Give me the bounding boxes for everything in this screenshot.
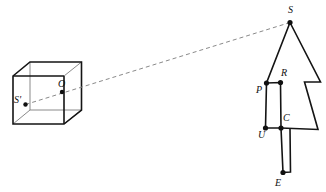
cube-group [13,62,82,124]
label-o: O [58,78,65,89]
point-c [278,125,283,130]
label-p: P [255,84,262,95]
cube-front-face-edges [13,62,82,124]
arrow-inner-notch [267,83,282,129]
label-r: R [280,67,287,78]
cube-hidden-edges [13,62,82,124]
point-r [278,80,283,85]
point-s [287,20,292,25]
label-u: U [258,129,266,140]
label-c: C [283,112,290,123]
point-e [280,170,285,175]
arrow-stem [281,128,291,173]
cube-hidden-edge-diagonal-front-left [13,110,30,124]
label-e: E [274,177,281,188]
point-p [264,80,269,85]
optics-diagram-svg: S S' O P R U C E [0,0,326,192]
point-o [60,90,64,94]
label-s-prime: S' [14,94,22,105]
point-labels: S S' O P R U C E [14,4,293,188]
cube-outline [13,62,82,124]
ray-dashed-line [26,23,291,105]
cube-edge-top-right-connector [64,62,82,76]
label-s: S [288,4,293,15]
arrow-outer-outline [266,23,321,130]
figure-canvas: S S' O P R U C E [0,0,326,192]
point-s-prime [23,102,27,106]
arrow-shape-group [266,23,321,173]
